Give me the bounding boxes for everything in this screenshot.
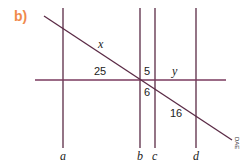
label-y: y: [171, 64, 178, 78]
label-16: 16: [170, 107, 182, 119]
line-label-d: d: [193, 149, 200, 161]
label-x: x: [97, 37, 104, 51]
part-label: b): [14, 8, 27, 24]
label-6: 6: [144, 86, 150, 98]
line-label-b: b: [137, 149, 143, 161]
diagonal-transversal: [44, 16, 232, 140]
label-5: 5: [144, 65, 150, 77]
label-25: 25: [94, 65, 106, 77]
parallel-lines-diagram: b) x 25 5 y 6 16 a b c d DAE: [0, 0, 252, 161]
line-label-a: a: [60, 149, 66, 161]
watermark: DAE: [234, 137, 240, 149]
line-label-c: c: [152, 149, 158, 161]
